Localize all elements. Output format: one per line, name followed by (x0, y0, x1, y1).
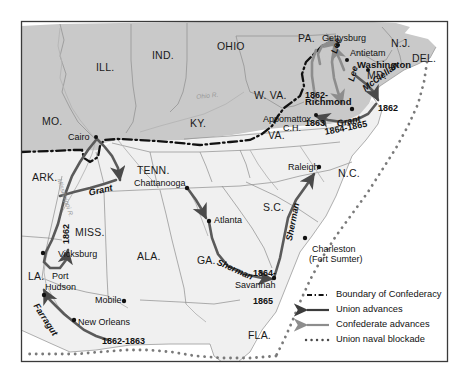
map-graphics-layer (0, 0, 469, 383)
civil-war-map: ILL. IND. OHIO PA. N.J. DEL. MD. MO. KY.… (0, 0, 469, 383)
